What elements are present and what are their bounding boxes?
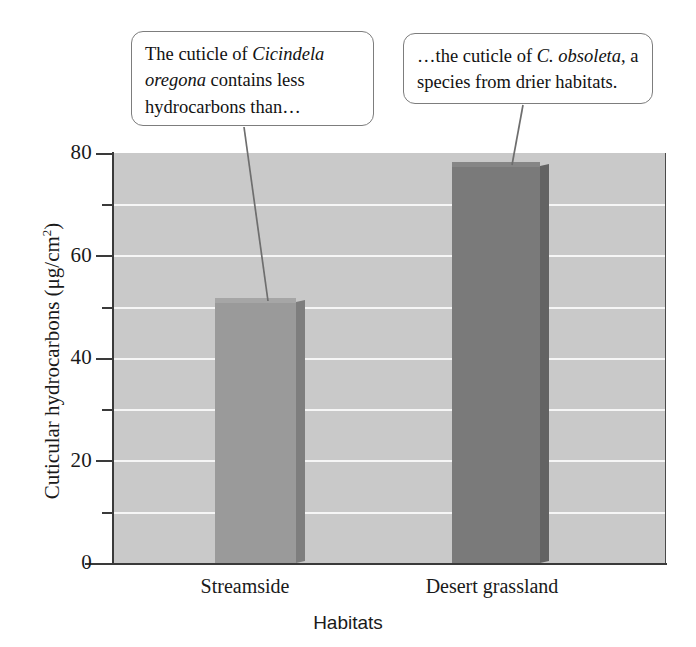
- x-tick-label-desert-grassland: Desert grassland: [392, 575, 592, 598]
- y-axis-title-close: ): [40, 223, 64, 230]
- gridline-10: [113, 512, 665, 514]
- bar-chart-figure: 80 60 40 20 0 Cuticular hydrocarbons (μg…: [0, 0, 696, 647]
- gridline-70: [113, 204, 665, 206]
- bar-streamside[interactable]: [215, 302, 296, 563]
- callout-streamside-text-1: The cuticle of: [145, 44, 252, 64]
- gridline-30: [113, 409, 665, 411]
- y-tick-50: [102, 307, 113, 309]
- x-axis-line: [85, 563, 667, 565]
- gridline-50: [113, 307, 665, 309]
- gridline-40: [113, 358, 665, 360]
- y-tick-30: [102, 409, 113, 411]
- bar-streamside-side: [296, 300, 305, 563]
- callout-desert-text-1: …the cuticle of: [417, 46, 537, 66]
- y-tick-80: [96, 153, 113, 155]
- callout-streamside[interactable]: The cuticle of Cicindela oregona contain…: [131, 31, 374, 126]
- bar-streamside-top: [215, 298, 296, 303]
- y-axis-title-unit: μg/cm: [40, 236, 64, 289]
- plot-area: [113, 153, 666, 563]
- y-tick-10: [102, 512, 113, 514]
- bar-desert-grassland-side: [540, 164, 549, 563]
- y-tick-60: [96, 255, 113, 257]
- y-axis-title: Cuticular hydrocarbons (μg/cm2): [39, 161, 65, 561]
- y-tick-70: [102, 204, 113, 206]
- y-tick-40: [96, 358, 113, 360]
- callout-desert-species: C. obsoleta: [537, 46, 621, 66]
- y-tick-0: [96, 563, 113, 565]
- x-tick-label-streamside: Streamside: [155, 575, 335, 598]
- bar-desert-grassland[interactable]: [452, 166, 540, 563]
- gridline-60: [113, 255, 665, 257]
- gridline-20: [113, 460, 665, 462]
- x-axis-title: Habitats: [0, 612, 696, 634]
- y-axis-title-main: Cuticular hydrocarbons (: [40, 289, 64, 499]
- callout-desert-grassland[interactable]: …the cuticle of C. obsoleta, a species f…: [403, 33, 653, 104]
- bar-desert-grassland-face: [452, 166, 540, 563]
- y-tick-20: [96, 460, 113, 462]
- bar-streamside-face: [215, 302, 296, 563]
- y-tick-label-80: 80: [32, 142, 92, 163]
- bar-desert-grassland-top: [452, 162, 540, 167]
- y-axis-title-exponent: 2: [39, 230, 54, 237]
